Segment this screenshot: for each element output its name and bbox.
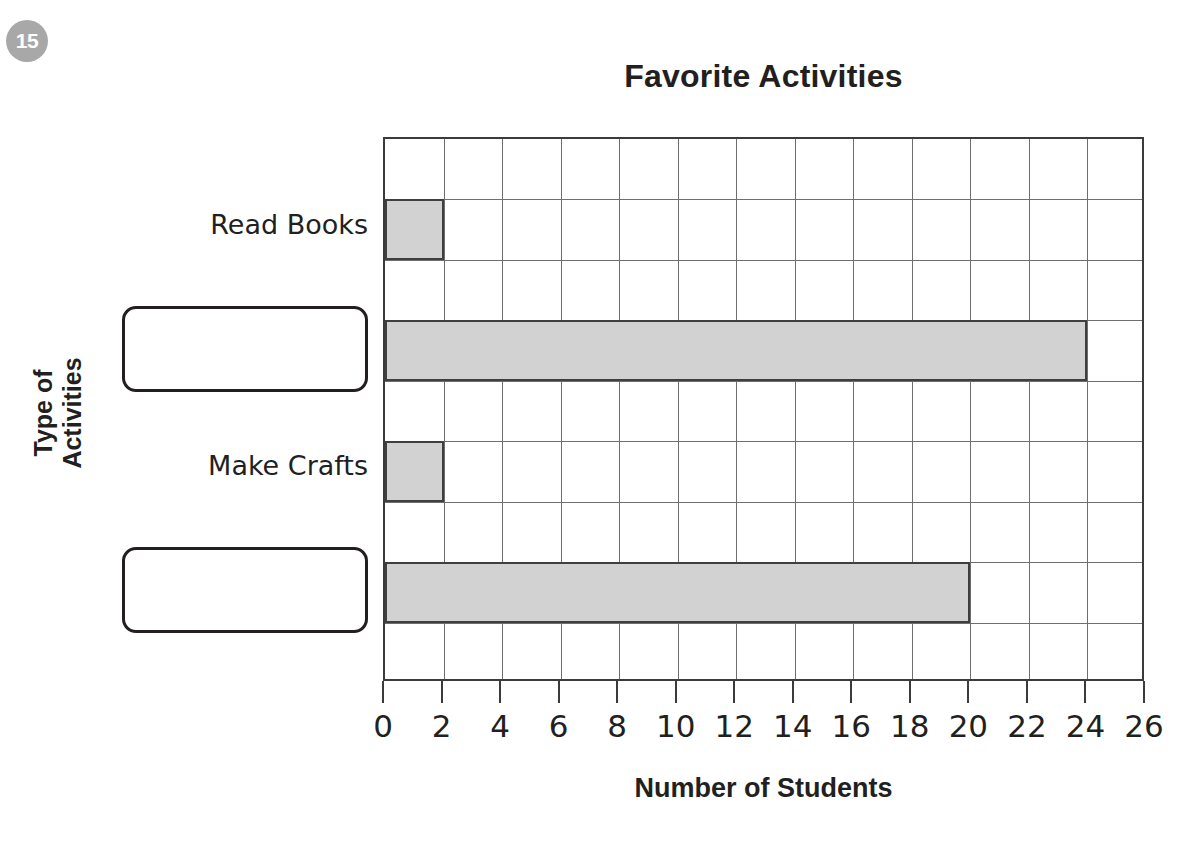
question-number-badge: 15 [6, 20, 48, 62]
x-tick [499, 681, 501, 703]
bar-1 [385, 320, 1087, 380]
x-tick [382, 681, 384, 703]
x-tick [733, 681, 735, 703]
x-tick-label: 14 [763, 708, 823, 744]
x-tick-label: 18 [880, 708, 940, 744]
y-axis-title: Type of Activities [29, 313, 87, 513]
x-tick [1084, 681, 1086, 703]
answer-box-1[interactable] [122, 306, 368, 392]
x-tick-label: 4 [470, 708, 530, 744]
x-tick-label: 12 [704, 708, 764, 744]
bar-3 [385, 562, 970, 622]
x-tick-label: 24 [1055, 708, 1115, 744]
x-tick [1143, 681, 1145, 703]
x-tick [1026, 681, 1028, 703]
x-tick [616, 681, 618, 703]
x-tick [558, 681, 560, 703]
chart-title: Favorite Activities [383, 58, 1144, 95]
x-tick-label: 6 [529, 708, 589, 744]
bar-2 [385, 441, 444, 501]
x-tick [909, 681, 911, 703]
x-tick-label: 2 [412, 708, 472, 744]
x-tick [967, 681, 969, 703]
grid-line-horizontal [385, 502, 1142, 503]
x-tick-label: 16 [821, 708, 881, 744]
grid-line-vertical [1029, 139, 1030, 679]
x-tick-label: 10 [646, 708, 706, 744]
x-tick-label: 0 [353, 708, 413, 744]
x-tick [675, 681, 677, 703]
x-tick [792, 681, 794, 703]
grid-line-vertical [970, 139, 971, 679]
x-axis-title: Number of Students [383, 773, 1144, 804]
grid-line-horizontal [385, 260, 1142, 261]
x-tick-label: 26 [1114, 708, 1174, 744]
answer-box-3[interactable] [122, 547, 368, 633]
plot-area [383, 137, 1144, 681]
grid-line-horizontal [385, 381, 1142, 382]
grid-line-vertical [1087, 139, 1088, 679]
x-tick [850, 681, 852, 703]
category-label-2: Make Crafts [108, 450, 368, 481]
x-tick-label: 8 [587, 708, 647, 744]
grid-line-horizontal [385, 623, 1142, 624]
grid-line-horizontal [385, 441, 1142, 442]
x-tick [441, 681, 443, 703]
x-tick-label: 20 [938, 708, 998, 744]
grid-line-horizontal [385, 199, 1142, 200]
category-label-0: Read Books [108, 209, 368, 240]
bar-0 [385, 199, 444, 259]
x-tick-label: 22 [997, 708, 1057, 744]
